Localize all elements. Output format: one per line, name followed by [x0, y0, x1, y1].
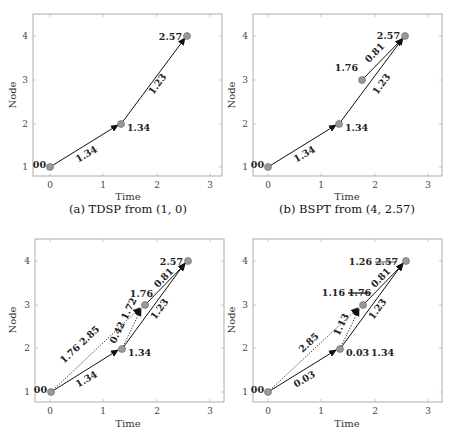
- node-label: 2.57: [160, 256, 183, 267]
- y-axis-label: Node: [7, 81, 18, 108]
- node-marker: [184, 33, 191, 40]
- x-tick: 2: [154, 406, 160, 416]
- x-tick: 1: [318, 406, 324, 416]
- y-tick: 2: [242, 343, 248, 353]
- node-marker: [185, 258, 192, 265]
- node-marker: [265, 389, 272, 396]
- node-marker: [118, 121, 125, 128]
- y-tick: 2: [22, 119, 28, 129]
- x-tick: 3: [425, 406, 431, 416]
- node-marker: [359, 77, 366, 84]
- node-marker: [119, 346, 126, 353]
- plot-frame: [33, 14, 222, 176]
- y-tick: 3: [24, 300, 30, 310]
- node-label: 1.76: [335, 62, 359, 73]
- panel-d: 0 1 2 3 1 2 3 4 Time Node 00 0.03 1.34 1…: [226, 239, 442, 429]
- y-tick: 1: [22, 162, 28, 172]
- edge-label: 0.81: [368, 265, 392, 289]
- y-tick: 4: [22, 31, 28, 41]
- figure: 0 1 2 3 1 2 3 4 Time Node 00 1.34 2.57 1…: [0, 0, 453, 437]
- node-label: 0.03: [346, 347, 369, 358]
- node-label: 00: [34, 384, 48, 395]
- y-tick: 2: [24, 343, 30, 353]
- node-marker: [47, 164, 54, 171]
- node-marker: [403, 258, 410, 265]
- y-axis-label: Node: [226, 81, 237, 108]
- node-label: 2.57: [159, 31, 182, 42]
- node-marker: [360, 302, 367, 309]
- node-label: 1.16: [322, 287, 346, 298]
- edge-label: 1.34: [73, 143, 99, 164]
- node-marker: [142, 302, 149, 309]
- x-tick: 0: [47, 180, 53, 190]
- node-label: 1.34: [371, 347, 395, 358]
- x-tick: 2: [372, 406, 378, 416]
- edge-label-dotted: 0.42 1.72: [107, 296, 139, 345]
- panel-b: 0 1 2 3 1 2 3 4 Time Node 00 1.34 1.76 2…: [226, 14, 442, 216]
- y-tick: 3: [242, 300, 248, 310]
- x-tick: 1: [100, 180, 106, 190]
- node-label: 2.57: [377, 30, 400, 41]
- y-tick: 2: [242, 119, 248, 129]
- y-tick: 4: [242, 31, 248, 41]
- y-tick: 1: [242, 387, 248, 397]
- node-marker: [337, 346, 344, 353]
- x-axis-label: Time: [115, 418, 140, 429]
- edge-label-dotted: 2.85: [296, 331, 320, 355]
- node-marker: [48, 389, 55, 396]
- edge-label: 1.23: [148, 296, 171, 321]
- y-tick: 4: [24, 256, 30, 266]
- plot-frame: [35, 239, 224, 402]
- edge-label: 1.23: [366, 296, 389, 321]
- x-tick: 3: [425, 180, 431, 190]
- edge-label: 1.23: [146, 71, 169, 96]
- caption: (b) BSPT from (4, 2.57): [279, 202, 415, 216]
- plot-frame: [253, 14, 442, 176]
- x-tick: 0: [265, 180, 271, 190]
- node-label: 1.76: [130, 288, 154, 299]
- node-label: 1.34: [128, 347, 152, 358]
- y-tick: 1: [242, 162, 248, 172]
- y-tick: 4: [242, 256, 248, 266]
- x-tick: 2: [154, 180, 160, 190]
- edge-label: 0.03: [291, 368, 317, 389]
- x-tick: 0: [265, 406, 271, 416]
- x-axis-label: Time: [334, 418, 359, 429]
- y-tick: 3: [242, 75, 248, 85]
- y-axis-label: Node: [7, 306, 18, 333]
- y-axis-label: Node: [226, 306, 237, 333]
- node-label: 1.26: [349, 256, 373, 267]
- y-tick: 1: [24, 387, 30, 397]
- caption: (a) TDSP from (1, 0): [69, 202, 187, 216]
- x-axis-label: Time: [115, 191, 140, 202]
- node-marker: [336, 121, 343, 128]
- node-label: 1.34: [127, 122, 151, 133]
- node-label: 00: [33, 159, 47, 170]
- x-tick: 0: [47, 406, 53, 416]
- edge-label: 1.34: [73, 368, 99, 389]
- x-tick: 3: [207, 180, 213, 190]
- edge-label: 1.34: [291, 143, 317, 164]
- node-marker: [265, 164, 272, 171]
- x-tick: 2: [372, 180, 378, 190]
- edge-label: 0.81: [362, 40, 386, 64]
- edge-label: 1.23: [370, 71, 393, 96]
- x-tick: 1: [100, 406, 106, 416]
- node-label: 00: [251, 159, 265, 170]
- x-tick: 3: [207, 406, 213, 416]
- node-label-struck: 1.76: [348, 287, 372, 298]
- node-label: 00: [251, 384, 265, 395]
- panel-a: 0 1 2 3 1 2 3 4 Time Node 00 1.34 2.57 1…: [7, 14, 222, 216]
- node-marker: [402, 33, 409, 40]
- node-label: 1.34: [345, 122, 369, 133]
- edge-label-dotted: 1.76 2.85: [58, 324, 102, 366]
- y-tick: 3: [22, 75, 28, 85]
- x-tick: 1: [318, 180, 324, 190]
- panel-c: 0 1 2 3 1 2 3 4 Time Node 00 1.34 1.76 2…: [7, 239, 224, 429]
- node-label-struck: 2.57: [375, 256, 398, 267]
- x-axis-label: Time: [334, 191, 359, 202]
